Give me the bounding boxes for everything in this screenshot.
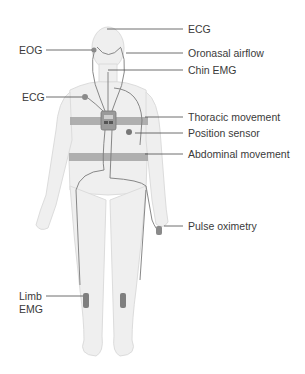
label-abdominal-movement: Abdominal movement: [188, 148, 290, 160]
label-ecg-chest: ECG: [22, 91, 45, 103]
label-limb: Limb: [19, 290, 42, 302]
label-ecg-head: ECG: [188, 23, 211, 35]
pulse-oximeter: [156, 226, 162, 235]
label-eog: EOG: [19, 44, 42, 56]
label-emg: EMG: [19, 303, 43, 315]
label-pulse-oximetry: Pulse oximetry: [188, 220, 257, 232]
left-arm: [36, 92, 72, 229]
ecg-electrode: [82, 94, 88, 100]
left-leg: [70, 186, 106, 356]
label-thoracic-movement: Thoracic movement: [188, 111, 280, 123]
label-chin-emg: Chin EMG: [188, 64, 236, 76]
limb-emg-right: [120, 293, 126, 308]
eog-electrode: [92, 48, 97, 53]
abdominal-belt: [69, 153, 148, 161]
recorder-device: [101, 111, 116, 130]
label-oronasal-airflow: Oronasal airflow: [188, 47, 264, 59]
limb-emg-left: [83, 293, 89, 308]
head: [92, 27, 124, 69]
label-position-sensor: Position sensor: [188, 127, 260, 139]
position-sensor: [126, 129, 132, 135]
